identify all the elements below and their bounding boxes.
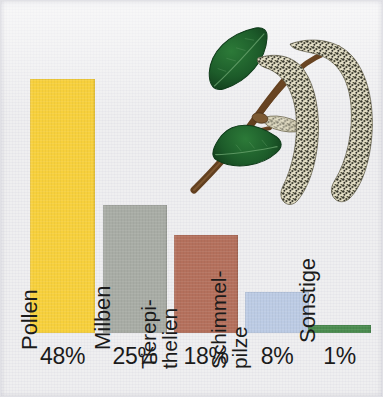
bar-tierepithelien-fill: [174, 235, 238, 333]
bar-pollen: [30, 79, 95, 333]
value-label-sonstige: 1%: [308, 343, 371, 370]
value-label-pollen: 48%: [30, 343, 95, 370]
allergen-distribution-figure: Pollen Milben Tierepi- thelien Schimmel-…: [0, 0, 383, 397]
bar-schimmelpilze-fill: [245, 292, 309, 333]
bar-chart-plot: Pollen Milben Tierepi- thelien Schimmel-…: [0, 0, 383, 397]
bar-tierepithelien: [174, 235, 238, 333]
value-label-schimmelpilze: 8%: [245, 343, 309, 370]
bar-sonstige: [308, 325, 371, 333]
bar-milben: [103, 205, 167, 333]
bar-pollen-fill: [30, 79, 95, 333]
value-label-milben: 25%: [103, 343, 167, 370]
bar-schimmelpilze: [245, 292, 309, 333]
bar-milben-fill: [103, 205, 167, 333]
bar-sonstige-fill: [308, 325, 371, 333]
value-label-tierepithelien: 18%: [174, 343, 238, 370]
